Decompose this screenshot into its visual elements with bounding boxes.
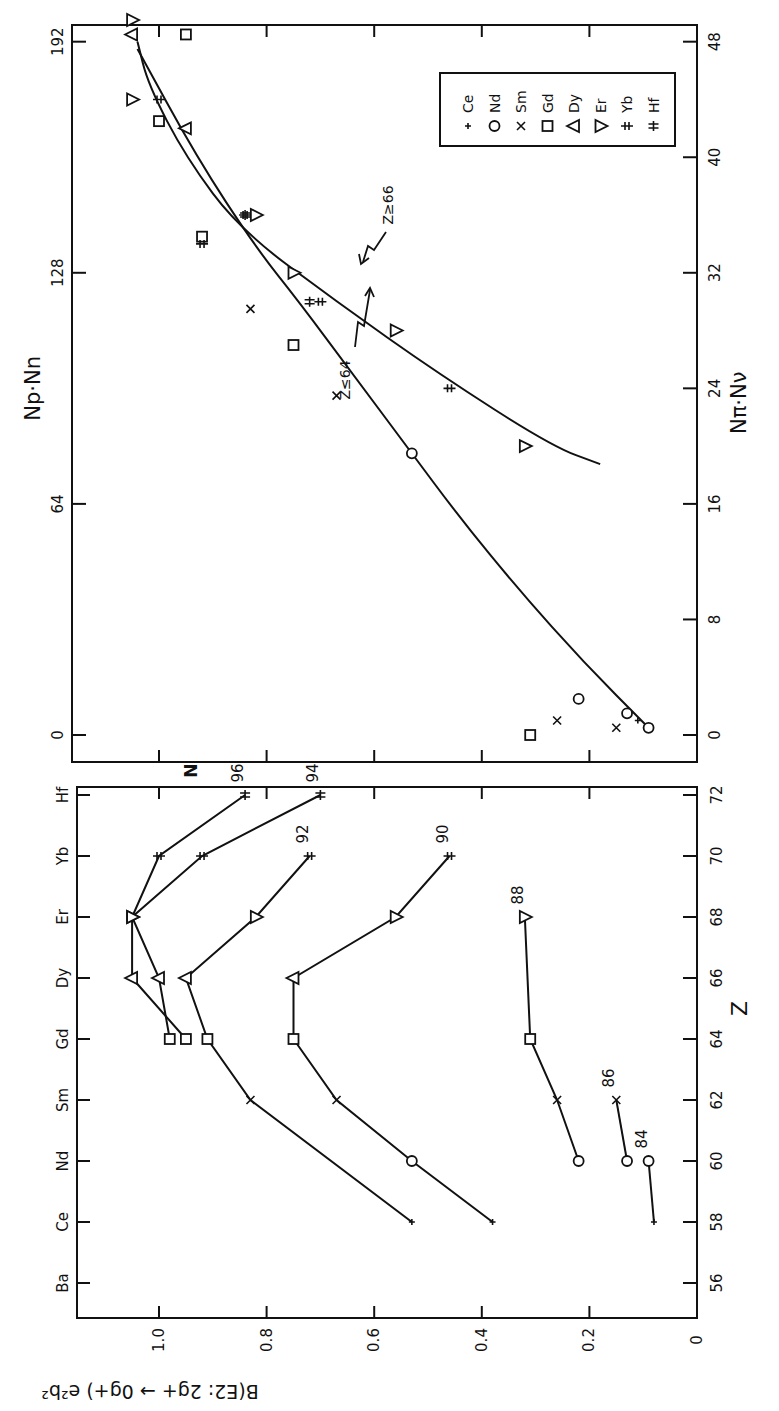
y-tick-label: 0: [688, 1335, 706, 1345]
triangle-down-marker: [391, 911, 403, 923]
np-tick-label: 192: [49, 27, 67, 56]
square-marker: [165, 1034, 175, 1044]
series-N86: 86: [600, 1068, 632, 1166]
legend-label: Hf: [646, 96, 662, 113]
z-tick-label: 62: [708, 1090, 726, 1109]
x-marker: [246, 1096, 254, 1104]
x-marker: [246, 305, 254, 313]
series-label: 92: [294, 824, 312, 843]
x-marker: [612, 724, 620, 732]
series-N88: 88: [509, 885, 584, 1166]
npi-tick-label: 32: [706, 263, 724, 282]
circle-marker: [407, 448, 417, 458]
square-marker: [525, 1034, 535, 1044]
yb-marker: [444, 852, 456, 860]
triangle-up-marker: [125, 28, 137, 40]
circle-marker: [644, 1156, 654, 1166]
legend-label: Ce: [460, 95, 476, 113]
element-label: Dy: [54, 968, 72, 989]
triangle-up-marker: [179, 972, 191, 984]
square-marker: [181, 29, 191, 39]
z-tick-label: 64: [708, 1029, 726, 1048]
square-marker: [525, 730, 535, 740]
x-marker: [553, 717, 561, 725]
x-axis-label-top: Np·Nn: [21, 356, 45, 421]
legend-label: Nd: [487, 94, 503, 113]
y-tick-label: 1.0: [150, 1328, 168, 1352]
npi-tick-label: 40: [706, 148, 724, 167]
npi-tick-label: 48: [706, 32, 724, 51]
triangle-down-marker: [391, 325, 403, 337]
element-label: Ba: [54, 1273, 72, 1292]
z-tick-label: 68: [708, 907, 726, 926]
triangle-up-marker: [179, 122, 191, 134]
series-label: 90: [434, 824, 452, 843]
z-tick-label: 58: [708, 1212, 726, 1231]
element-label: Yb: [54, 847, 72, 867]
series-label: 86: [600, 1068, 618, 1087]
element-label: Ce: [54, 1212, 72, 1232]
legend-label: Er: [593, 98, 609, 113]
z-tick-label: 56: [708, 1273, 726, 1292]
element-label: Hf: [54, 786, 72, 803]
triangle-down-marker: [520, 440, 532, 452]
triangle-down-marker: [251, 911, 263, 923]
legend-label: Dy: [566, 94, 582, 113]
series-label: 96: [229, 763, 247, 782]
square-marker: [197, 232, 207, 242]
element-label: Sm: [54, 1088, 72, 1112]
lower-frame: [77, 787, 697, 1318]
hf-marker: [315, 790, 325, 800]
yb-marker: [304, 852, 316, 860]
series-line: [132, 795, 320, 1039]
yb-marker: [314, 298, 326, 306]
element-label: Nd: [54, 1151, 72, 1172]
y-tick-label: 0.8: [258, 1328, 276, 1352]
series-N92: 92: [179, 824, 415, 1225]
y-tick-label: 0.2: [580, 1328, 598, 1352]
hf-marker: [305, 297, 315, 307]
circle-marker: [574, 1156, 584, 1166]
triangle-down-marker: [251, 209, 263, 221]
triangle-down-marker: [127, 93, 139, 105]
series-label: 94: [304, 763, 322, 782]
series-N96: 96: [127, 763, 250, 1044]
z-tick-label: 66: [708, 968, 726, 987]
series-N94: 94: [125, 763, 325, 1044]
lower-panel: 84868890929496: [77, 763, 697, 1318]
z-tick-label: 60: [708, 1151, 726, 1170]
element-label: Er: [54, 908, 72, 924]
annotation-z66: Z≥66: [380, 185, 396, 224]
upper-panel: Z≤64Z≥66CeNdSmGdDyErYbHf: [72, 14, 697, 762]
circle-marker: [622, 1156, 632, 1166]
x-axis-label-bottom: Nπ·Nν: [727, 372, 751, 434]
np-tick-label: 128: [49, 258, 67, 287]
chart-canvas: Z≤64Z≥66CeNdSmGdDyErYbHf 84868890929496 …: [0, 0, 779, 1411]
circle-marker: [490, 121, 500, 131]
npi-tick-label: 24: [706, 379, 724, 398]
z-tick-label: 70: [708, 846, 726, 865]
square-marker: [181, 1034, 191, 1044]
annotation-arrow: [355, 290, 370, 347]
series-label: 84: [633, 1129, 651, 1148]
series-N84: 84: [633, 1129, 657, 1225]
legend-label: Gd: [540, 93, 556, 113]
circle-marker: [622, 708, 632, 718]
square-marker: [543, 121, 553, 131]
y-tick-label: 0.4: [473, 1328, 491, 1352]
y-tick-label: 0.6: [365, 1328, 383, 1352]
x-marker: [333, 1096, 341, 1104]
series-header: N: [181, 763, 201, 777]
npi-tick-label: 0: [706, 730, 724, 740]
annotation-z64: Z≤64: [337, 360, 353, 399]
fit-curve: [137, 49, 648, 728]
series-line: [616, 1100, 627, 1161]
square-marker: [289, 340, 299, 350]
series-line: [294, 856, 493, 1222]
axis-labels: 00.20.40.60.81.0565860626466687072BaCeNd…: [21, 27, 752, 1403]
square-marker: [202, 1034, 212, 1044]
square-marker: [154, 116, 164, 126]
x-axis-label: Z: [727, 1001, 752, 1016]
triangle-down-marker: [289, 267, 301, 279]
y-axis-label: B(E2: 2g+ → 0g+) e²b²: [41, 1381, 259, 1403]
